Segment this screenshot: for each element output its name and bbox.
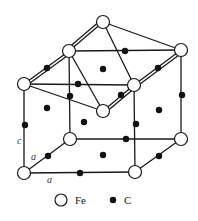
carbon-atom: [22, 122, 28, 128]
carbon-atom: [118, 92, 124, 98]
carbon-atom: [45, 153, 51, 159]
axis-label: a: [31, 151, 36, 162]
carbon-atom: [44, 65, 50, 71]
carbon-atom: [133, 121, 139, 127]
carbon-atom: [156, 107, 162, 113]
lattice-edges: [24, 20, 183, 173]
legend-c-label: C: [124, 194, 131, 206]
iron-atom: [97, 16, 110, 29]
iron-atom: [175, 44, 188, 57]
carbon-atom: [100, 152, 106, 158]
carbon-atom: [155, 65, 161, 71]
axis-label: c: [17, 135, 22, 146]
carbon-atom: [75, 81, 81, 87]
carbon-atom: [77, 170, 83, 176]
iron-atom: [18, 167, 31, 180]
iron-atom: [128, 79, 141, 92]
legend: Fe C: [55, 194, 131, 206]
iron-atom: [64, 133, 77, 146]
legend-c-icon: [110, 197, 116, 203]
crystal-diagram: caa Fe C: [0, 0, 198, 221]
legend-fe-label: Fe: [75, 194, 86, 206]
iron-atom: [97, 105, 110, 118]
carbon-atom: [156, 153, 162, 159]
carbon-atom: [67, 93, 73, 99]
carbon-atom: [81, 119, 87, 125]
legend-fe-icon: [55, 194, 67, 206]
carbon-atom: [179, 92, 185, 98]
carbon-atom: [44, 105, 50, 111]
carbon-atom: [122, 48, 128, 54]
carbon-atom: [100, 66, 106, 72]
iron-atom: [129, 166, 142, 179]
iron-atom: [18, 78, 31, 91]
iron-atom: [175, 133, 188, 146]
carbon-atom: [123, 136, 129, 142]
iron-atom: [63, 45, 76, 58]
axis-label: a: [47, 174, 52, 185]
